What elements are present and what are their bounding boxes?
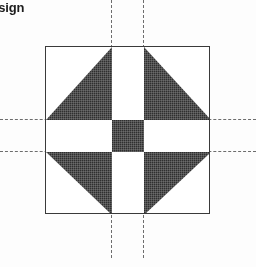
patch-center	[112, 120, 144, 152]
patch-grid	[46, 47, 209, 213]
patch-bottom-right	[144, 152, 210, 214]
dither-texture	[144, 152, 210, 214]
patch-bottom-left-triangle	[46, 152, 112, 214]
patch-bottom-center	[112, 152, 144, 214]
patch-top-right	[144, 47, 210, 120]
patch-top-left	[46, 47, 112, 120]
dither-texture	[112, 120, 144, 152]
patch-top-right-triangle	[144, 47, 210, 120]
patch-top-left-triangle	[46, 47, 112, 120]
quilt-block-outline	[45, 46, 210, 214]
dither-texture	[144, 47, 210, 120]
patch-middle-right	[144, 120, 210, 152]
patch-bottom-left	[46, 152, 112, 214]
diagram-canvas: Design	[0, 0, 256, 267]
patch-top-center	[112, 47, 144, 120]
page-title: Design	[0, 0, 24, 16]
dither-texture	[46, 152, 112, 214]
dither-texture	[46, 47, 112, 120]
patch-bottom-right-triangle	[144, 152, 210, 214]
patch-middle-left	[46, 120, 112, 152]
